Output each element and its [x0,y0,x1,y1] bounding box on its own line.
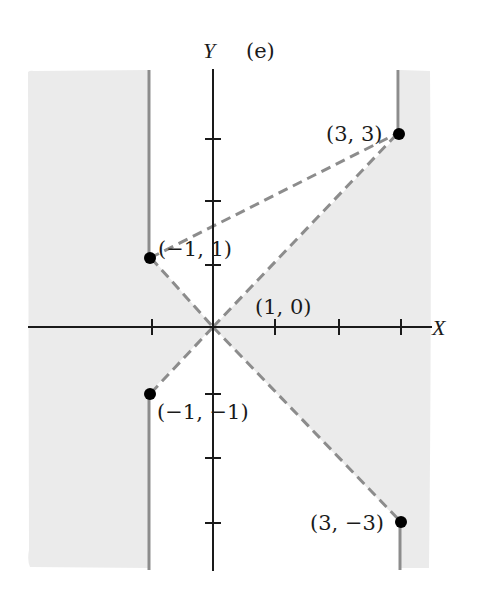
label-3-neg3: (3, −3) [310,511,384,535]
label-neg1-1: (−1, 1) [158,237,232,261]
y-axis-label: Y [203,38,218,63]
point-3-3 [393,128,405,140]
point-neg1-1 [144,252,156,264]
label-neg1-neg1: (−1, −1) [157,400,249,424]
point-neg1-neg1 [144,388,156,400]
region-diagram: Y (e) X (3, 3) (−1, 1) (1, 0) (−1, −1) (… [0,0,478,597]
x-axis-label: X [431,315,447,340]
panel-label: (e) [246,39,275,63]
point-3-neg3 [395,516,407,528]
label-1-0: (1, 0) [255,295,311,319]
label-3-3: (3, 3) [326,122,382,146]
